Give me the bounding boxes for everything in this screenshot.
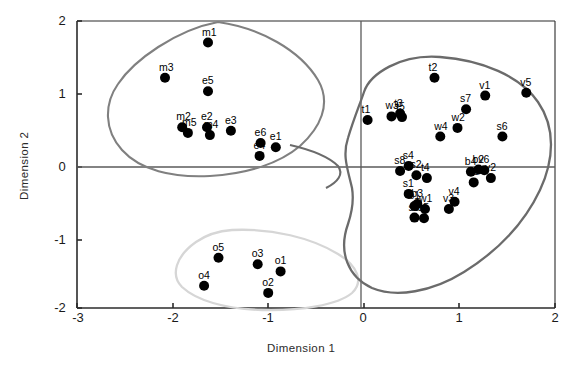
data-point-s8 xyxy=(395,166,405,176)
data-point-label-o4: o4 xyxy=(198,270,210,281)
data-point-o1 xyxy=(276,266,286,276)
data-point-label-t1: t1 xyxy=(362,104,371,115)
data-point-o3 xyxy=(253,259,263,269)
data-point-o4 xyxy=(199,281,209,291)
data-point-e1 xyxy=(271,142,281,152)
data-point-e4 xyxy=(255,151,265,161)
data-point-label-t4: t4 xyxy=(421,162,430,173)
data-point-label-o5: o5 xyxy=(212,242,224,253)
cluster-hull-left-upper xyxy=(108,22,324,176)
data-point-label-w4: w4 xyxy=(434,121,447,132)
data-point-label-o3: o3 xyxy=(252,248,264,259)
data-point-label-v5: v5 xyxy=(520,77,531,88)
data-point-v3 xyxy=(444,204,454,214)
data-point-v2 xyxy=(486,173,496,183)
data-point-label-v3: v3 xyxy=(443,193,454,204)
data-point-m1 xyxy=(203,38,213,48)
data-point-label-m1: m1 xyxy=(202,27,217,38)
y-tick-1: 1 xyxy=(52,86,72,101)
data-point-label-e3: e3 xyxy=(225,115,237,126)
data-point-e5 xyxy=(203,86,213,96)
data-point-label-e5: e5 xyxy=(202,75,214,86)
data-point-label-t2: t2 xyxy=(429,62,438,73)
x-tick-2: 2 xyxy=(546,310,564,325)
data-point-label-s7: s7 xyxy=(460,93,471,104)
y-tick-0: 0 xyxy=(52,159,72,174)
data-point-t5 xyxy=(397,112,407,122)
y-tick-neg1: -1 xyxy=(48,232,72,247)
data-point-label-b5: b5 xyxy=(468,166,480,177)
data-point-label-v1: v1 xyxy=(479,80,490,91)
data-point-e3 xyxy=(226,126,236,136)
data-point-label-o1: o1 xyxy=(275,255,287,266)
data-point-t4 xyxy=(422,173,432,183)
data-point-label-w2: w2 xyxy=(451,112,464,123)
data-point-m5 xyxy=(183,128,193,138)
data-point-w4 xyxy=(435,132,445,142)
data-point-label-e4: e4 xyxy=(254,140,266,151)
data-point-o2 xyxy=(263,288,273,298)
data-point-label-e6: e6 xyxy=(255,127,267,138)
x-tick-0: 0 xyxy=(354,310,372,325)
data-point-t1 xyxy=(363,115,373,125)
data-point-m4 xyxy=(205,130,215,140)
data-point-s5 xyxy=(419,213,429,223)
data-point-label-e1: e1 xyxy=(270,131,282,142)
x-tick-neg2: -2 xyxy=(162,310,184,325)
x-tick-neg3: -3 xyxy=(67,310,89,325)
data-point-w3 xyxy=(387,111,397,121)
data-point-label-t5: t5 xyxy=(396,101,405,112)
data-point-label-s6: s6 xyxy=(496,121,507,132)
data-point-label-o2: o2 xyxy=(262,277,274,288)
data-point-v5 xyxy=(521,88,531,98)
y-tick-2: 2 xyxy=(52,13,72,28)
data-point-s3 xyxy=(410,213,420,223)
data-point-label-m4: m4 xyxy=(204,119,219,130)
data-point-s6 xyxy=(497,132,507,142)
data-point-label-s5: s5 xyxy=(418,202,429,213)
x-tick-1: 1 xyxy=(450,310,468,325)
data-point-m3 xyxy=(160,73,170,83)
data-point-label-m5: m5 xyxy=(182,117,197,128)
scatter-plot: 2 1 0 -1 -2 -3 -2 -1 0 1 2 Dimension 1 D… xyxy=(0,0,579,377)
data-point-label-v2: v2 xyxy=(485,162,496,173)
data-point-w2 xyxy=(453,123,463,133)
data-point-b5 xyxy=(469,177,479,187)
data-point-o5 xyxy=(214,253,224,263)
data-point-label-s2: s2 xyxy=(410,159,421,170)
y-axis-title: Dimension 2 xyxy=(18,132,30,200)
data-point-t2 xyxy=(430,73,440,83)
x-tick-neg1: -1 xyxy=(257,310,279,325)
data-point-v1 xyxy=(480,91,490,101)
x-axis-title: Dimension 1 xyxy=(267,342,335,354)
cluster-hull-right xyxy=(344,57,551,293)
data-point-label-m3: m3 xyxy=(159,62,174,73)
